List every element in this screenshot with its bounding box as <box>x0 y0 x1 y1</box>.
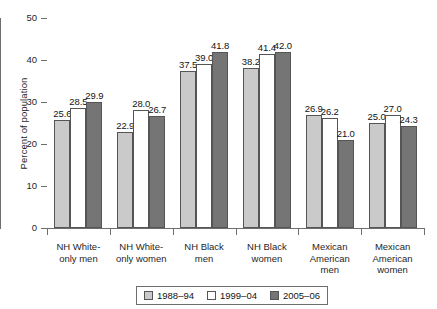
legend-item[interactable]: 2005–06 <box>270 290 320 301</box>
bar <box>133 110 149 228</box>
x-axis-tick <box>173 229 174 235</box>
y-axis-tick-label: 40 <box>26 54 37 65</box>
bar <box>70 108 86 228</box>
y-axis-tick-label: 50 <box>26 12 37 23</box>
bar <box>369 123 385 228</box>
bar-value-label: 24.3 <box>396 114 422 125</box>
legend-label: 1988–94 <box>157 290 194 301</box>
legend-swatch-icon <box>270 291 279 300</box>
legend-label: 2005–06 <box>283 290 320 301</box>
bar-value-label: 26.2 <box>317 106 343 117</box>
x-axis-tick <box>361 229 362 235</box>
bar <box>149 116 165 228</box>
legend-swatch-icon <box>144 291 153 300</box>
bar <box>212 52 228 228</box>
y-axis-tick-label: 30 <box>26 96 37 107</box>
bar <box>86 102 102 228</box>
bar-value-label: 41.8 <box>207 40 233 51</box>
bar <box>180 71 196 229</box>
bar <box>196 64 212 228</box>
category-label-line: women <box>354 264 431 276</box>
bar-value-label: 21.0 <box>333 128 359 139</box>
y-axis-tick-label: 20 <box>26 138 37 149</box>
bar-value-label: 29.9 <box>81 90 107 101</box>
legend-swatch-icon <box>207 291 216 300</box>
category-label-line: Mexican <box>354 241 431 253</box>
x-axis-tick <box>424 229 425 235</box>
category-label-line: American <box>354 253 431 265</box>
bar-value-label: 26.7 <box>144 104 170 115</box>
x-axis-tick <box>298 229 299 235</box>
bar <box>243 68 259 228</box>
bar <box>259 54 275 228</box>
bar <box>401 126 417 228</box>
y-axis-title: Percent of population <box>18 54 29 194</box>
legend-label: 1999–04 <box>220 290 257 301</box>
bar-chart: Percent of population 01020304050 25.628… <box>0 0 437 309</box>
y-axis-tick-label: 10 <box>26 180 37 191</box>
x-axis-tick <box>47 229 48 235</box>
bar-value-label: 42.0 <box>270 40 296 51</box>
x-axis-tick <box>110 229 111 235</box>
legend-item[interactable]: 1988–94 <box>144 290 194 301</box>
x-axis-tick <box>236 229 237 235</box>
bar-value-label: 27.0 <box>380 103 406 114</box>
x-axis-category-label: MexicanAmericanwomen <box>354 241 431 276</box>
bar <box>275 52 291 228</box>
bar <box>54 120 70 228</box>
y-axis-tick-label: 0 <box>32 222 37 233</box>
bar <box>306 115 322 228</box>
y-axis-line <box>0 18 1 229</box>
bar <box>385 115 401 228</box>
plot-area: 25.628.529.922.928.026.737.539.041.838.2… <box>47 18 424 228</box>
legend-item[interactable]: 1999–04 <box>207 290 257 301</box>
bar <box>338 140 354 228</box>
bar <box>117 132 133 228</box>
chart-legend: 1988–941999–042005–06 <box>136 286 328 305</box>
